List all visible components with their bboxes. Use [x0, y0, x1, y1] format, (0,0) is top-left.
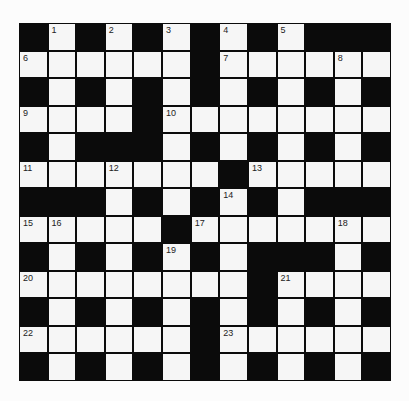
answer-cell[interactable] [335, 107, 362, 133]
answer-cell[interactable]: 17 [192, 217, 219, 243]
answer-cell[interactable] [134, 52, 161, 78]
answer-cell[interactable] [278, 299, 305, 325]
answer-cell[interactable] [335, 79, 362, 105]
answer-cell[interactable] [278, 107, 305, 133]
answer-cell[interactable] [163, 162, 190, 188]
answer-cell[interactable]: 9 [20, 107, 47, 133]
answer-cell[interactable] [134, 217, 161, 243]
answer-cell[interactable] [306, 162, 333, 188]
answer-cell[interactable] [49, 52, 76, 78]
answer-cell[interactable] [106, 327, 133, 353]
answer-cell[interactable] [106, 79, 133, 105]
answer-cell[interactable]: 2 [106, 24, 133, 50]
answer-cell[interactable] [335, 134, 362, 160]
answer-cell[interactable] [278, 134, 305, 160]
answer-cell[interactable]: 14 [220, 189, 247, 215]
answer-cell[interactable] [134, 272, 161, 298]
answer-cell[interactable]: 18 [335, 217, 362, 243]
answer-cell[interactable]: 1 [49, 24, 76, 50]
answer-cell[interactable] [363, 272, 390, 298]
answer-cell[interactable] [106, 217, 133, 243]
answer-cell[interactable] [106, 354, 133, 380]
answer-cell[interactable] [220, 107, 247, 133]
answer-cell[interactable]: 16 [49, 217, 76, 243]
answer-cell[interactable] [49, 299, 76, 325]
answer-cell[interactable] [134, 162, 161, 188]
answer-cell[interactable]: 6 [20, 52, 47, 78]
answer-cell[interactable]: 19 [163, 244, 190, 270]
answer-cell[interactable]: 4 [220, 24, 247, 50]
answer-cell[interactable] [220, 299, 247, 325]
answer-cell[interactable] [278, 354, 305, 380]
answer-cell[interactable] [278, 189, 305, 215]
answer-cell[interactable] [163, 52, 190, 78]
answer-cell[interactable] [278, 79, 305, 105]
answer-cell[interactable] [49, 134, 76, 160]
answer-cell[interactable]: 22 [20, 327, 47, 353]
answer-cell[interactable] [163, 299, 190, 325]
answer-cell[interactable] [306, 107, 333, 133]
answer-cell[interactable] [49, 107, 76, 133]
answer-cell[interactable] [106, 189, 133, 215]
answer-cell[interactable] [49, 162, 76, 188]
answer-cell[interactable]: 11 [20, 162, 47, 188]
answer-cell[interactable] [220, 244, 247, 270]
answer-cell[interactable] [192, 107, 219, 133]
answer-cell[interactable] [77, 52, 104, 78]
answer-cell[interactable] [163, 354, 190, 380]
answer-cell[interactable] [249, 52, 276, 78]
answer-cell[interactable] [163, 327, 190, 353]
answer-cell[interactable] [163, 272, 190, 298]
answer-cell[interactable] [77, 327, 104, 353]
answer-cell[interactable] [106, 299, 133, 325]
answer-cell[interactable] [335, 354, 362, 380]
answer-cell[interactable] [49, 327, 76, 353]
answer-cell[interactable] [106, 272, 133, 298]
answer-cell[interactable] [220, 134, 247, 160]
answer-cell[interactable] [278, 52, 305, 78]
answer-cell[interactable] [77, 107, 104, 133]
answer-cell[interactable] [49, 244, 76, 270]
answer-cell[interactable] [306, 327, 333, 353]
answer-cell[interactable]: 20 [20, 272, 47, 298]
answer-cell[interactable] [49, 272, 76, 298]
answer-cell[interactable] [77, 217, 104, 243]
answer-cell[interactable] [278, 327, 305, 353]
answer-cell[interactable] [363, 162, 390, 188]
answer-cell[interactable] [306, 217, 333, 243]
answer-cell[interactable] [335, 327, 362, 353]
answer-cell[interactable] [163, 79, 190, 105]
answer-cell[interactable] [363, 217, 390, 243]
answer-cell[interactable] [249, 107, 276, 133]
answer-cell[interactable] [106, 244, 133, 270]
answer-cell[interactable] [363, 52, 390, 78]
answer-cell[interactable] [220, 272, 247, 298]
answer-cell[interactable] [163, 134, 190, 160]
answer-cell[interactable]: 10 [163, 107, 190, 133]
answer-cell[interactable] [278, 162, 305, 188]
answer-cell[interactable] [192, 272, 219, 298]
answer-cell[interactable] [249, 217, 276, 243]
answer-cell[interactable]: 7 [220, 52, 247, 78]
answer-cell[interactable]: 12 [106, 162, 133, 188]
answer-cell[interactable] [220, 217, 247, 243]
answer-cell[interactable] [363, 107, 390, 133]
answer-cell[interactable]: 23 [220, 327, 247, 353]
answer-cell[interactable] [335, 299, 362, 325]
answer-cell[interactable] [335, 272, 362, 298]
answer-cell[interactable] [163, 189, 190, 215]
answer-cell[interactable] [134, 327, 161, 353]
answer-cell[interactable]: 3 [163, 24, 190, 50]
answer-cell[interactable] [306, 52, 333, 78]
answer-cell[interactable]: 5 [278, 24, 305, 50]
answer-cell[interactable] [49, 354, 76, 380]
answer-cell[interactable] [335, 162, 362, 188]
answer-cell[interactable] [77, 162, 104, 188]
answer-cell[interactable] [249, 327, 276, 353]
answer-cell[interactable] [192, 162, 219, 188]
answer-cell[interactable]: 8 [335, 52, 362, 78]
answer-cell[interactable] [220, 79, 247, 105]
answer-cell[interactable] [278, 217, 305, 243]
answer-cell[interactable]: 13 [249, 162, 276, 188]
answer-cell[interactable] [220, 354, 247, 380]
